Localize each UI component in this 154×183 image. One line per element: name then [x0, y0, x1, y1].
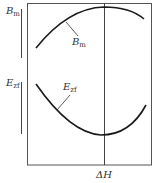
- y-label-ezf: Ezf: [5, 77, 21, 90]
- ezf-curve-label: Ezf: [62, 81, 78, 94]
- delta-h-label: ΔH: [95, 169, 112, 180]
- bm-curve-label: Bm: [71, 36, 86, 49]
- plot-frame: [28, 4, 152, 166]
- diagram-canvas: Bm Ezf Bm Ezf ΔH: [0, 0, 154, 183]
- ezf-leader-line: [57, 95, 70, 110]
- y-label-bm: Bm: [5, 5, 20, 18]
- bm-curve: [36, 7, 144, 48]
- ezf-curve: [36, 84, 146, 135]
- bm-leader-line: [66, 22, 78, 36]
